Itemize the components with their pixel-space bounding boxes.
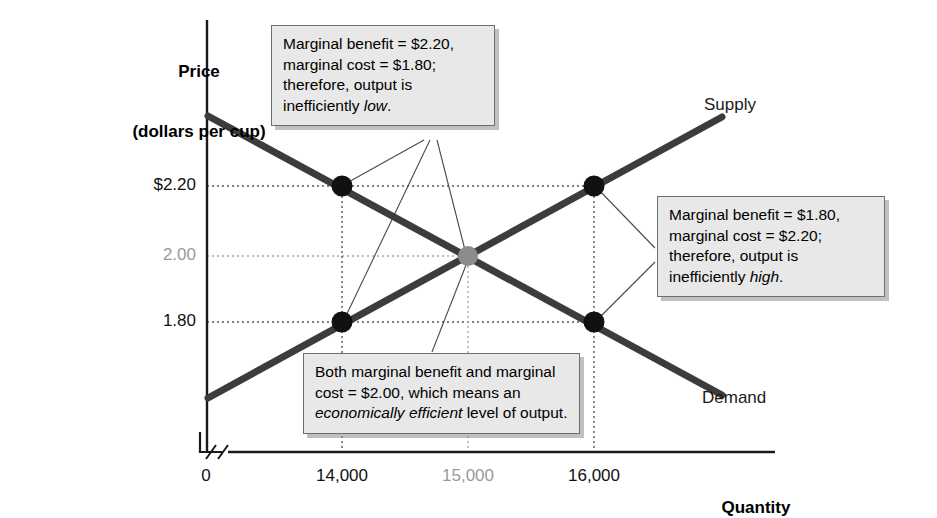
leader-high-to-demand-16000 [597,262,655,320]
y-axis-title-line2: (dollars per cup) [124,122,274,142]
callout-high-line2: marginal cost = $2.20; [669,226,873,247]
x-tick-label-16000: 16,000 [534,466,654,486]
callout-efficient-line1: Both marginal benefit and marginal [315,362,568,383]
callout-low-line1: Marginal benefit = $2.20, [283,34,483,55]
figure-canvas: Price (dollars per cup) $2.20 2.00 1.80 … [0,0,937,518]
callout-efficient-emphasis: economically efficient [315,404,462,421]
y-tick-label-220: $2.20 [100,175,196,195]
callout-efficient-line3: economically efficient level of output. [315,403,568,424]
callout-high-line4-post: . [779,268,783,285]
demand-curve-label: Demand [702,388,766,408]
y-axis-title: Price (dollars per cup) [124,22,274,182]
callout-low-line4-post: . [387,97,391,114]
callout-efficient-line3-post: level of output. [462,404,567,421]
x-axis-title-line1: Quantity [666,498,846,518]
point-supply-16000 [584,176,605,197]
leader-high-to-supply-16000 [597,188,655,248]
callout-high-line1: Marginal benefit = $1.80, [669,205,873,226]
callout-low-line4-pre: inefficiently [283,97,364,114]
point-demand-14000 [332,176,353,197]
x-origin-label: 0 [176,466,236,486]
callout-high-line4-pre: inefficiently [669,268,750,285]
callout-high-line3: therefore, output is [669,246,873,267]
supply-curve-label: Supply [704,95,756,115]
callout-high-emphasis: high [750,268,779,285]
callout-economically-efficient: Both marginal benefit and marginal cost … [303,353,580,434]
point-demand-16000 [584,312,605,333]
leader-low-to-eq [437,140,466,254]
callout-leader-lines [344,140,655,352]
callout-efficient-line2: cost = $2.00, which means an [315,383,568,404]
y-axis-title-line1: Price [124,62,274,82]
callout-inefficiently-high: Marginal benefit = $1.80, marginal cost … [657,196,885,297]
x-tick-label-15000: 15,000 [408,466,528,486]
callout-low-emphasis: low [364,97,387,114]
y-tick-label-200: 2.00 [100,245,196,265]
callout-low-line4: inefficiently low. [283,96,483,117]
y-tick-label-180: 1.80 [100,311,196,331]
point-equilibrium [458,246,478,266]
callout-high-line4: inefficiently high. [669,267,873,288]
callout-low-line2: marginal cost = $1.80; [283,55,483,76]
x-tick-label-14000: 14,000 [282,466,402,486]
origin-bracket [200,432,222,452]
callout-inefficiently-low: Marginal benefit = $2.20, marginal cost … [271,25,495,126]
x-axis-title: Quantity (cups per day) [666,458,846,518]
callout-low-line3: therefore, output is [283,75,483,96]
point-supply-14000 [332,312,353,333]
